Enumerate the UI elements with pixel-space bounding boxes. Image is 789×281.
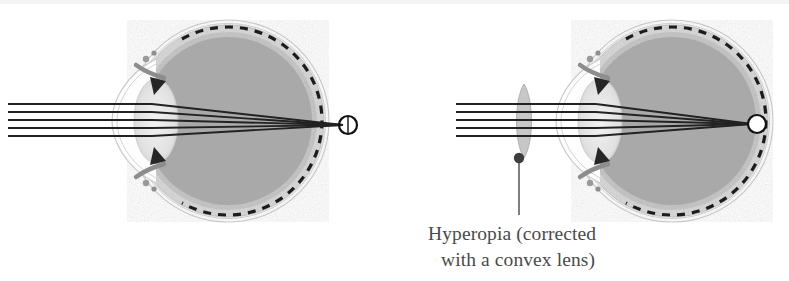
leader-dot [514,153,524,163]
caption-line-2: with a convex lens) [441,249,595,271]
scan-artifact-strip [0,0,789,4]
eye-diagram-canvas: Hyperopia (corrected with a convex lens) [0,0,789,281]
hyperopia-figure: Hyperopia (corrected with a convex lens) [0,0,789,281]
caption-line-1: Hyperopia (corrected [428,223,596,245]
focal-point-marker-corrected [748,115,766,133]
